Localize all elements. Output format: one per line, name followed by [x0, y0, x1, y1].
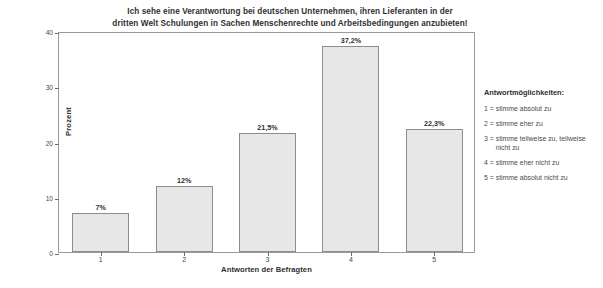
legend-item-label: stimme teilweise zu, teilweise nicht zu — [496, 134, 600, 152]
y-tick-label: 0 — [37, 251, 53, 258]
y-axis-title: Prozent — [64, 87, 73, 157]
x-axis-title: Antworten der Befragten — [58, 265, 475, 274]
y-tick-label: 10 — [37, 196, 53, 203]
legend-item-key: 4 = — [484, 158, 496, 167]
chart-title-line-1: Ich sehe eine Verantwortung bei deutsche… — [60, 6, 520, 18]
y-tick-mark — [55, 33, 59, 34]
bar-value-label: 22,3% — [424, 119, 444, 128]
x-tick-label: 3 — [256, 256, 280, 263]
legend-item-label: stimme eher nicht zu — [496, 158, 600, 167]
x-tick-label: 5 — [422, 256, 446, 263]
y-tick-mark — [55, 144, 59, 145]
bar: 12% — [156, 186, 213, 252]
legend-item: 5 = stimme absolut nicht zu — [484, 173, 600, 182]
legend-item: 2 = stimme eher zu — [484, 119, 600, 128]
bar-value-label: 37,2% — [341, 36, 361, 45]
y-tick-mark — [55, 199, 59, 200]
legend-item-key: 2 = — [484, 119, 496, 128]
y-tick-label: 40 — [37, 30, 53, 37]
legend-items: 1 = stimme absolut zu2 = stimme eher zu3… — [484, 104, 600, 182]
bar-value-label: 12% — [177, 176, 191, 185]
x-tick-label: 1 — [89, 256, 113, 263]
legend-item-label: stimme eher zu — [496, 119, 600, 128]
chart-title-line-2: dritten Welt Schulungen in Sachen Mensch… — [60, 18, 520, 30]
bar: 37,2% — [322, 46, 379, 252]
legend-item-label: stimme absolut nicht zu — [496, 173, 600, 182]
legend-item: 1 = stimme absolut zu — [484, 104, 600, 113]
legend-item-key: 1 = — [484, 104, 496, 113]
legend-item-label: stimme absolut zu — [496, 104, 600, 113]
legend-item: 4 = stimme eher nicht zu — [484, 158, 600, 167]
y-tick-label: 30 — [37, 85, 53, 92]
bar-value-label: 21,5% — [257, 123, 277, 132]
x-tick-label: 4 — [339, 256, 363, 263]
legend-item-key: 3 = — [484, 134, 496, 152]
plot-area: Prozent 010203040 7%12%21,5%37,2%22,3% 1… — [58, 32, 475, 253]
y-tick-mark — [55, 88, 59, 89]
legend-item-key: 5 = — [484, 173, 496, 182]
chart-title: Ich sehe eine Verantwortung bei deutsche… — [60, 6, 520, 29]
bar: 22,3% — [406, 129, 463, 252]
legend: Antwortmöglichkeiten: 1 = stimme absolut… — [484, 88, 600, 188]
y-tick-mark — [55, 254, 59, 255]
y-tick-label: 20 — [37, 141, 53, 148]
bar: 7% — [72, 213, 129, 252]
bar: 21,5% — [239, 133, 296, 252]
legend-item: 3 = stimme teilweise zu, teilweise nicht… — [484, 134, 600, 152]
x-tick-label: 2 — [172, 256, 196, 263]
bar-value-label: 7% — [95, 203, 105, 212]
legend-title: Antwortmöglichkeiten: — [484, 88, 600, 97]
